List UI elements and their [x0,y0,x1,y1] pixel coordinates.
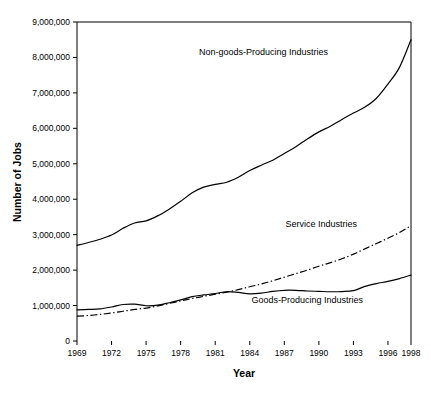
x-tick-label: 1984 [240,348,259,358]
x-tick-label: 1975 [137,348,156,358]
y-tick-label: 7,000,000 [32,88,70,98]
y-axis: 01,000,0002,000,0003,000,0004,000,0005,0… [32,17,77,346]
x-tick-label: 1969 [68,348,87,358]
chart-container: 01,000,0002,000,0003,000,0004,000,0005,0… [0,0,431,394]
y-tick-label: 5,000,000 [32,159,70,169]
y-tick-label: 9,000,000 [32,17,70,27]
series-line [77,40,411,246]
y-tick-label: 6,000,000 [32,123,70,133]
y-tick-label: 8,000,000 [32,52,70,62]
series-annotation-label: Goods-Producing Industries [252,295,364,305]
y-tick-label: 4,000,000 [32,194,70,204]
y-tick-label: 2,000,000 [32,265,70,275]
x-axis-title: Year [233,367,255,379]
series-lines [77,40,411,316]
x-tick-label: 1981 [206,348,225,358]
x-tick-label: 1996 [379,348,398,358]
x-tick-label: 1998 [402,348,421,358]
y-tick-label: 1,000,000 [32,301,70,311]
y-axis-title: Number of Jobs [11,142,23,222]
x-tick-label: 1978 [171,348,190,358]
series-annotation-label: Service Industries [285,219,357,229]
x-tick-label: 1993 [344,348,363,358]
x-tick-label: 1990 [309,348,328,358]
x-axis: 1969197219751978198119841987199019931996… [68,341,421,358]
x-tick-label: 1972 [102,348,121,358]
y-tick-label: 0 [65,336,70,346]
x-tick-label: 1987 [275,348,294,358]
series-annotations: Non-goods-Producing IndustriesService In… [199,47,364,305]
series-annotation-label: Non-goods-Producing Industries [199,47,329,57]
line-chart: 01,000,0002,000,0003,000,0004,000,0005,0… [0,0,431,394]
y-tick-label: 3,000,000 [32,230,70,240]
